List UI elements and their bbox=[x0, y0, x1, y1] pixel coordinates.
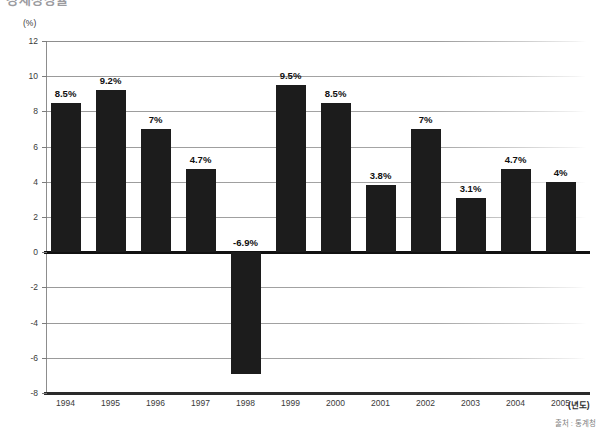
y-axis-tick-label: 0 bbox=[12, 247, 38, 257]
y-axis-tick-label: -8 bbox=[12, 388, 38, 398]
x-axis-tick-label: 1994 bbox=[56, 398, 75, 408]
bar-value-label: 7% bbox=[419, 114, 433, 125]
gridline bbox=[46, 147, 586, 148]
bar[interactable] bbox=[411, 129, 441, 252]
x-axis-tick-label: 2002 bbox=[416, 398, 435, 408]
bar-value-label: 8.5% bbox=[325, 88, 347, 99]
bar-value-label: -6.9% bbox=[233, 237, 258, 248]
gridline bbox=[46, 111, 586, 112]
y-axis-tick-mark bbox=[42, 41, 47, 42]
x-axis-tick-label: 1996 bbox=[146, 398, 165, 408]
y-axis-tick-mark bbox=[42, 323, 47, 324]
gridline bbox=[46, 287, 586, 288]
x-axis-tick-labels: 1994199519961997199819992000200120022003… bbox=[46, 398, 586, 414]
y-axis-tick-labels: 121086420-2-4-6-8 bbox=[8, 41, 38, 393]
y-axis-tick-mark bbox=[42, 358, 47, 359]
bar[interactable] bbox=[546, 182, 576, 252]
y-axis-tick-mark bbox=[42, 182, 47, 183]
x-axis-tick-label: 2003 bbox=[461, 398, 480, 408]
bar[interactable] bbox=[366, 185, 396, 252]
y-axis-tick-label: 8 bbox=[12, 106, 38, 116]
x-axis-tick-label: 2001 bbox=[371, 398, 390, 408]
y-axis-tick-label: 12 bbox=[12, 36, 38, 46]
plot-area: 8.5%9.2%7%4.7%-6.9%9.5%8.5%3.8%7%3.1%4.7… bbox=[46, 41, 586, 393]
gridline bbox=[46, 76, 586, 77]
y-axis-tick-label: 4 bbox=[12, 177, 38, 187]
y-axis-tick-label: 6 bbox=[12, 142, 38, 152]
bar[interactable] bbox=[276, 85, 306, 252]
x-axis-tick-label: 1995 bbox=[101, 398, 120, 408]
x-axis-unit-label: (년도) bbox=[568, 398, 590, 410]
bar[interactable] bbox=[186, 169, 216, 252]
bar[interactable] bbox=[51, 103, 81, 253]
x-axis-tick-label: 1999 bbox=[281, 398, 300, 408]
x-axis-tick-label: 2004 bbox=[506, 398, 525, 408]
bar-value-label: 7% bbox=[149, 114, 163, 125]
bar-value-label: 9.5% bbox=[280, 70, 302, 81]
gridline bbox=[46, 323, 586, 324]
y-axis-tick-mark bbox=[42, 252, 47, 253]
y-axis-tick-label: -4 bbox=[12, 318, 38, 328]
bar[interactable] bbox=[231, 252, 261, 373]
bar[interactable] bbox=[96, 90, 126, 252]
axis-bottom-line bbox=[44, 392, 590, 395]
bar[interactable] bbox=[141, 129, 171, 252]
bar-value-label: 8.5% bbox=[55, 88, 77, 99]
bar[interactable] bbox=[321, 103, 351, 253]
y-axis-tick-label: 10 bbox=[12, 71, 38, 81]
y-axis-tick-label: -2 bbox=[12, 282, 38, 292]
y-axis-tick-mark bbox=[42, 393, 47, 394]
y-axis-tick-label: 2 bbox=[12, 212, 38, 222]
bar-value-label: 3.8% bbox=[370, 170, 392, 181]
x-axis-tick-label: 1997 bbox=[191, 398, 210, 408]
bar[interactable] bbox=[501, 169, 531, 252]
bar-chart: (%) 121086420-2-4-6-8 8.5%9.2%7%4.7%-6.9… bbox=[0, 0, 604, 442]
bar-value-label: 3.1% bbox=[460, 183, 482, 194]
y-axis-tick-mark bbox=[42, 76, 47, 77]
gridline bbox=[46, 358, 586, 359]
bar[interactable] bbox=[456, 198, 486, 253]
y-axis-unit-label: (%) bbox=[23, 18, 36, 28]
bar-value-label: 4% bbox=[554, 167, 568, 178]
x-axis-tick-label: 2000 bbox=[326, 398, 345, 408]
bar-value-label: 9.2% bbox=[100, 75, 122, 86]
y-axis-tick-mark bbox=[42, 147, 47, 148]
y-axis-tick-mark bbox=[42, 111, 47, 112]
bar-value-label: 4.7% bbox=[190, 154, 212, 165]
bar-value-label: 4.7% bbox=[505, 154, 527, 165]
y-axis-tick-mark bbox=[42, 287, 47, 288]
gridline bbox=[46, 41, 586, 42]
y-axis-tick-mark bbox=[42, 217, 47, 218]
source-note: 출처 : 통계청 bbox=[555, 417, 596, 428]
y-axis-tick-label: -6 bbox=[12, 353, 38, 363]
x-axis-tick-label: 1998 bbox=[236, 398, 255, 408]
